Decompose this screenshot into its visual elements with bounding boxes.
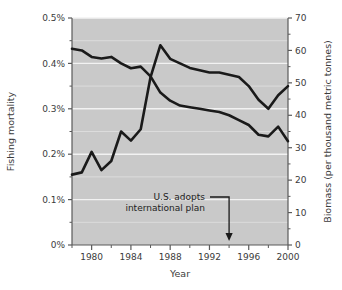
right-axis-tick-label: 60: [295, 46, 307, 56]
left-axis-tick-label: 0.5%: [42, 13, 65, 23]
chart-container: 0%0.1%0.2%0.3%0.4%0.5% 010203040506070 1…: [0, 0, 342, 290]
right-axis-tick-label: 70: [295, 13, 307, 23]
right-axis-tick-label: 40: [295, 110, 307, 120]
x-axis-title: Year: [169, 268, 190, 279]
right-axis-tick-label: 10: [295, 208, 307, 218]
annotation-line-1: U.S. adopts: [153, 192, 205, 202]
left-axis-tick-label: 0.3%: [42, 104, 65, 114]
dual-axis-line-chart: 0%0.1%0.2%0.3%0.4%0.5% 010203040506070 1…: [0, 0, 342, 290]
right-axis-tick-label: 20: [295, 175, 307, 185]
x-axis-tick-label: 1988: [159, 252, 182, 262]
right-axis-tick-label: 0: [295, 240, 301, 250]
x-axis-tick-label: 2000: [277, 252, 300, 262]
left-axis-tick-label: 0.1%: [42, 195, 65, 205]
left-axis-tick-label: 0.2%: [42, 149, 65, 159]
y-axis-title: Fishing mortality: [5, 92, 16, 172]
x-axis-tick-label: 1992: [198, 252, 221, 262]
x-axis-tick-label: 1984: [119, 252, 142, 262]
right-axis-tick-label: 50: [295, 78, 307, 88]
left-axis-tick-label: 0.4%: [42, 59, 65, 69]
x-axis-tick-label: 1980: [80, 252, 103, 262]
y2-axis-title: Biomass (per thousand metric tonnes): [322, 40, 333, 223]
annotation-line-2: international plan: [125, 203, 205, 213]
left-axis-tick-label: 0%: [51, 240, 66, 250]
x-axis-tick-label: 1996: [237, 252, 260, 262]
right-axis-tick-label: 30: [295, 143, 307, 153]
